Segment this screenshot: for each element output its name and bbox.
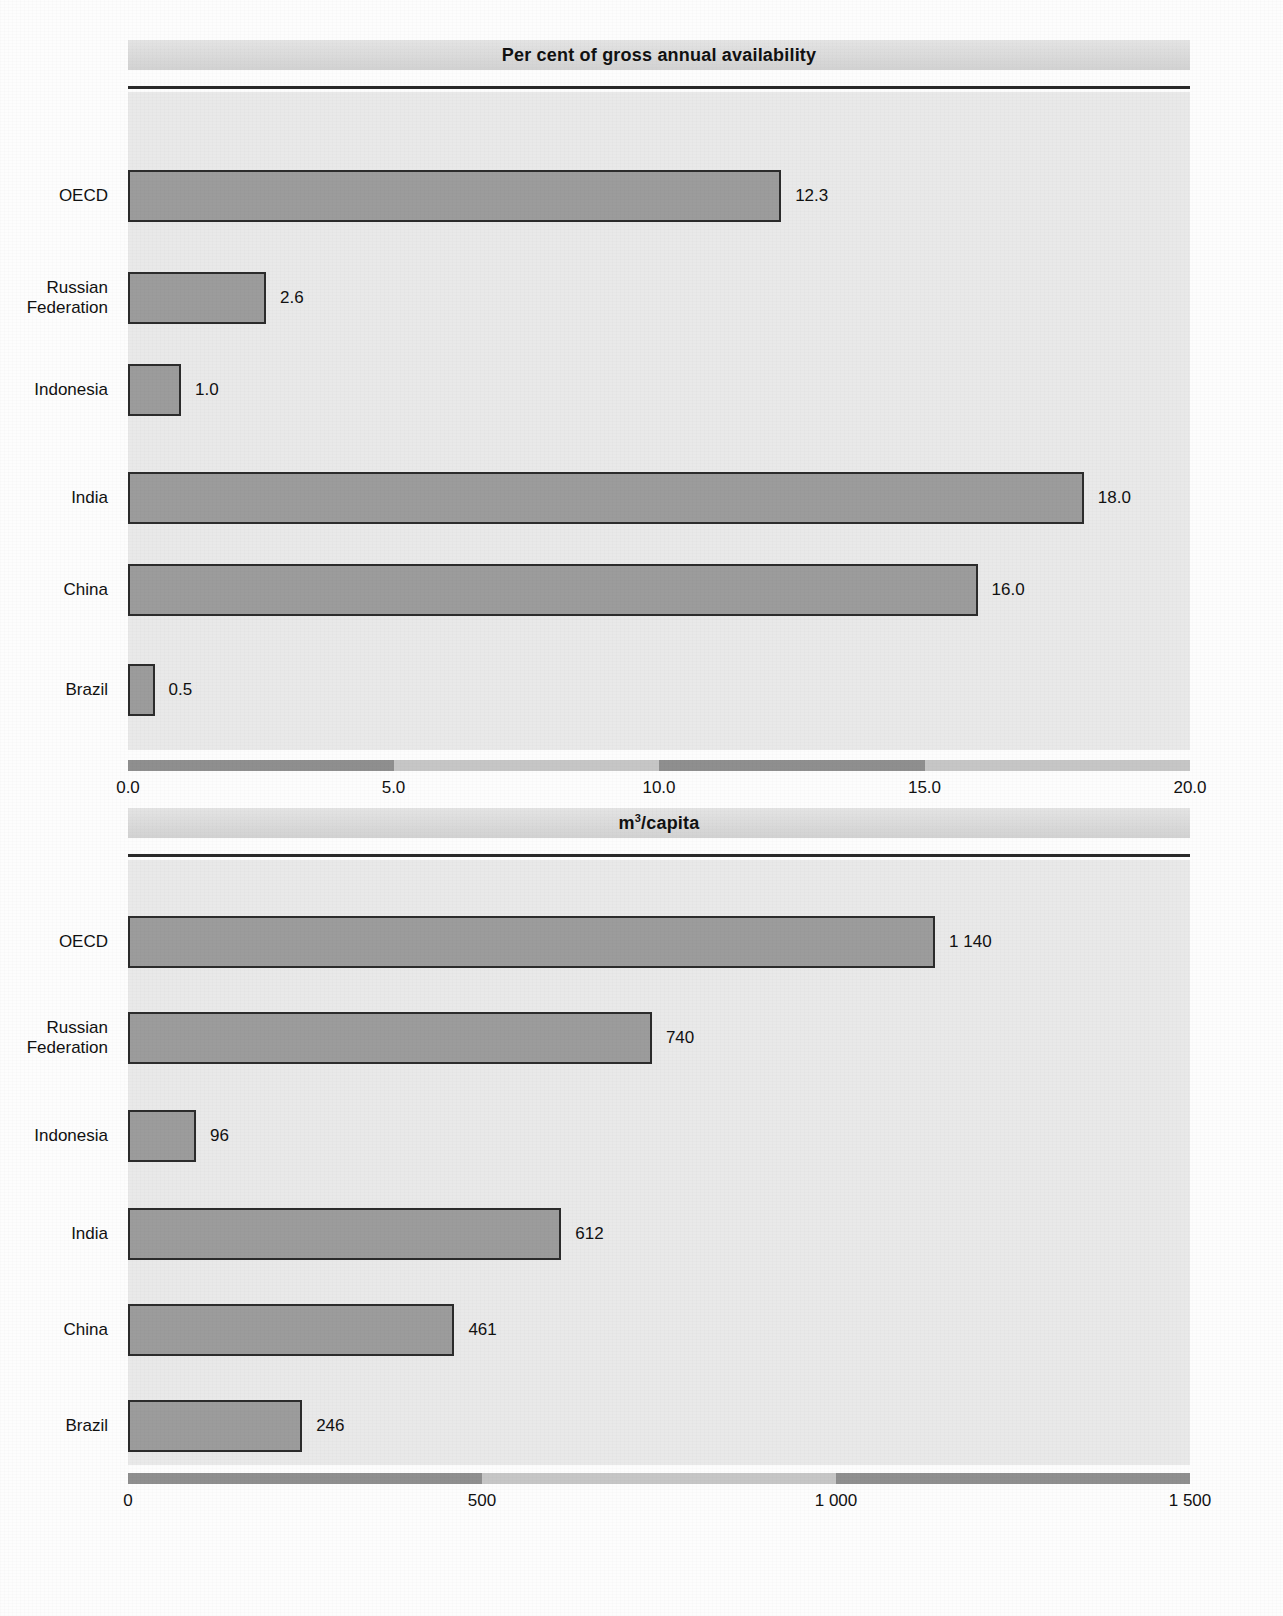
axis-band-segment — [482, 1473, 836, 1484]
bar — [128, 1208, 561, 1260]
chart-2-top-rule — [128, 854, 1190, 857]
bar — [128, 170, 781, 222]
axis-band-segment — [128, 760, 394, 771]
category-label: India — [0, 488, 108, 508]
chart-2-title-banner: m3/capita — [128, 808, 1190, 838]
bar-value-label: 18.0 — [1098, 488, 1131, 508]
category-label: Russian Federation — [0, 1018, 108, 1058]
chart-2-plot-area: OECD1 140Russian Federation740Indonesia9… — [128, 860, 1190, 1465]
axis-tick-label: 0 — [123, 1491, 132, 1511]
category-label: OECD — [0, 186, 108, 206]
category-label: China — [0, 580, 108, 600]
bar-value-label: 1 140 — [949, 932, 992, 952]
bar-value-label: 0.5 — [169, 680, 193, 700]
axis-tick-label: 1 500 — [1169, 1491, 1212, 1511]
axis-band-segment — [394, 760, 660, 771]
category-label: Brazil — [0, 1416, 108, 1436]
bar-value-label: 12.3 — [795, 186, 828, 206]
chart-1-bar-rows: OECD12.3Russian Federation2.6Indonesia1.… — [128, 92, 1190, 750]
bar — [128, 1304, 454, 1356]
chart-2-title-superscript: 3 — [635, 812, 641, 824]
axis-tick-label: 500 — [468, 1491, 496, 1511]
chart-1-title-banner: Per cent of gross annual availability — [128, 40, 1190, 70]
chart-1-plot-area: OECD12.3Russian Federation2.6Indonesia1.… — [128, 92, 1190, 750]
chart-2-title: m3/capita — [619, 813, 700, 834]
axis-tick-label: 0.0 — [116, 778, 140, 798]
bar — [128, 1110, 196, 1162]
axis-band-segment — [128, 1473, 482, 1484]
bar-value-label: 1.0 — [195, 380, 219, 400]
category-label: China — [0, 1320, 108, 1340]
category-label: Brazil — [0, 680, 108, 700]
bar — [128, 916, 935, 968]
axis-band-segment — [836, 1473, 1190, 1484]
bar-value-label: 612 — [575, 1224, 603, 1244]
bar-value-label: 96 — [210, 1126, 229, 1146]
chart-1-title: Per cent of gross annual availability — [502, 45, 817, 66]
bar — [128, 472, 1084, 524]
category-label: OECD — [0, 932, 108, 952]
axis-tick-label: 15.0 — [908, 778, 941, 798]
bar-value-label: 246 — [316, 1416, 344, 1436]
category-label: Indonesia — [0, 380, 108, 400]
bar-value-label: 2.6 — [280, 288, 304, 308]
bar — [128, 564, 978, 616]
category-label: Russian Federation — [0, 278, 108, 318]
bar — [128, 272, 266, 324]
axis-tick-label: 5.0 — [382, 778, 406, 798]
chart-2-title-base: m3/capita — [619, 813, 700, 833]
bar-value-label: 16.0 — [992, 580, 1025, 600]
axis-tick-label: 1 000 — [815, 1491, 858, 1511]
bar-value-label: 461 — [468, 1320, 496, 1340]
chart-2-axis-strip — [128, 1473, 1190, 1484]
bar — [128, 664, 155, 716]
axis-tick-label: 20.0 — [1173, 778, 1206, 798]
bar-value-label: 740 — [666, 1028, 694, 1048]
chart-2-bar-rows: OECD1 140Russian Federation740Indonesia9… — [128, 860, 1190, 1465]
chart-1-axis-strip — [128, 760, 1190, 771]
bar — [128, 364, 181, 416]
category-label: Indonesia — [0, 1126, 108, 1146]
chart-1-top-rule — [128, 86, 1190, 89]
category-label: India — [0, 1224, 108, 1244]
axis-band-segment — [925, 760, 1191, 771]
axis-band-segment — [659, 760, 925, 771]
bar — [128, 1012, 652, 1064]
bar — [128, 1400, 302, 1452]
axis-tick-label: 10.0 — [642, 778, 675, 798]
